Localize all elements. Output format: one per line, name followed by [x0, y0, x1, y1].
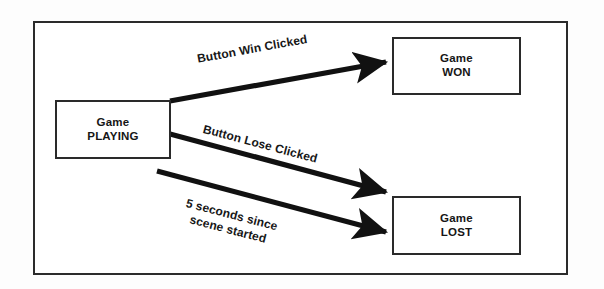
- state-label-line2: PLAYING: [87, 130, 138, 144]
- transition-arrow-win: [170, 62, 386, 101]
- diagram-canvas: Game PLAYING Game WON Game LOST Button W…: [0, 0, 604, 289]
- state-label-line1: Game: [440, 212, 473, 226]
- state-label-line2: WON: [442, 66, 471, 80]
- state-label-line2: LOST: [441, 226, 472, 240]
- state-box-lost[interactable]: Game LOST: [392, 196, 521, 255]
- state-label-line1: Game: [440, 52, 473, 66]
- state-box-won[interactable]: Game WON: [392, 37, 521, 95]
- state-label-line1: Game: [97, 116, 130, 130]
- state-box-playing[interactable]: Game PLAYING: [55, 100, 171, 159]
